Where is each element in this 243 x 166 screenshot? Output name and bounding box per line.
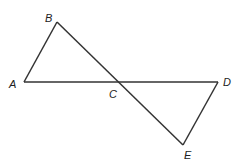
label-d: D bbox=[223, 76, 231, 88]
label-b: B bbox=[45, 12, 52, 24]
segment-ab bbox=[24, 22, 57, 82]
segment-be bbox=[57, 22, 183, 145]
label-c: C bbox=[109, 88, 117, 100]
label-e: E bbox=[184, 149, 192, 161]
geometry-diagram: A B C D E bbox=[0, 0, 243, 166]
segment-de bbox=[183, 82, 218, 145]
label-a: A bbox=[8, 78, 16, 90]
